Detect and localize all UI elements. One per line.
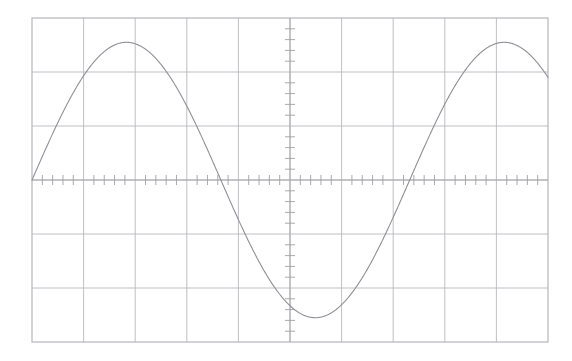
graticule-svg <box>0 0 572 361</box>
oscilloscope-screen <box>0 0 572 361</box>
